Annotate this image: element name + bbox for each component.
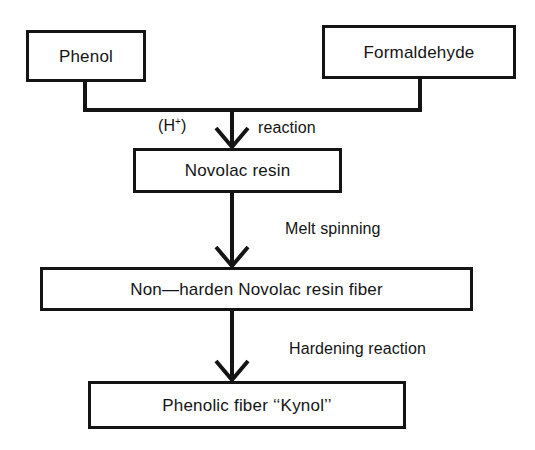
node-phenol-label: Phenol — [59, 48, 113, 65]
flowchart-diagram: Phenol Formaldehyde Novolac resin Non—ha… — [0, 0, 535, 450]
node-formaldehyde-label: Formaldehyde — [363, 44, 474, 61]
edge-label-acid-catalyst: (H+) — [158, 118, 186, 134]
node-phenolic-fiber-kynol: Phenolic fiber ‘‘Kynol’’ — [88, 381, 406, 429]
edge-label-reaction: reaction — [258, 120, 316, 136]
edge-label-hardening-reaction: Hardening reaction — [289, 341, 426, 357]
node-non-harden-novolac-resin-fiber-label: Non—harden Novolac resin fiber — [130, 281, 383, 298]
edge-label-acid-catalyst-suffix: ) — [181, 117, 186, 134]
edge-label-melt-spinning: Melt spinning — [285, 221, 381, 237]
node-novolac-resin-label: Novolac resin — [185, 162, 291, 179]
node-novolac-resin: Novolac resin — [133, 148, 342, 193]
edge-label-acid-catalyst-text: (H — [158, 117, 175, 134]
node-non-harden-novolac-resin-fiber: Non—harden Novolac resin fiber — [40, 267, 473, 311]
node-phenol: Phenol — [26, 30, 146, 82]
node-phenolic-fiber-kynol-label: Phenolic fiber ‘‘Kynol’’ — [162, 397, 332, 414]
node-formaldehyde: Formaldehyde — [322, 25, 516, 79]
